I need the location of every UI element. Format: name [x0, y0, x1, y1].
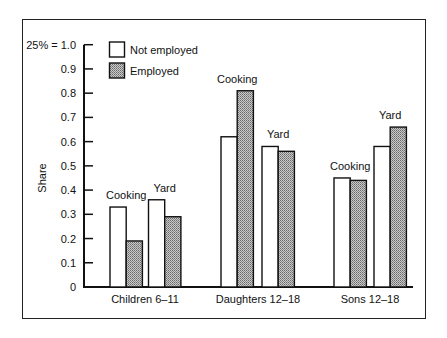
y-tick-label: 0.1 — [61, 257, 76, 269]
y-tick-label: 25% = 1.0 — [26, 39, 76, 51]
y-tick-label: 0.8 — [61, 87, 76, 99]
bar-group-label: Yard — [379, 109, 401, 121]
bar-employed — [390, 127, 406, 287]
y-tick-label: 0.6 — [61, 136, 76, 148]
y-tick-label: 0 — [70, 281, 76, 293]
legend: Not employedEmployed — [110, 42, 198, 78]
bar-group-label: Yard — [267, 128, 289, 140]
bar-not-employed — [334, 178, 350, 287]
bar-not-employed — [374, 146, 390, 287]
y-tick-label: 0.9 — [61, 63, 76, 75]
y-tick-label: 0.7 — [61, 111, 76, 123]
bar-group-label: Cooking — [217, 73, 257, 85]
x-category-label: Sons 12–18 — [341, 293, 400, 305]
bar-not-employed — [221, 137, 237, 287]
bar-employed — [237, 91, 253, 287]
x-category-label: Daughters 12–18 — [216, 293, 300, 305]
y-tick-label: 0.5 — [61, 160, 76, 172]
legend-label: Employed — [130, 65, 179, 77]
bar-group-label: Cooking — [330, 160, 370, 172]
bars: CookingYardChildren 6–11CookingYardDaugh… — [106, 73, 406, 305]
bar-employed — [165, 217, 181, 287]
bar-employed — [126, 241, 142, 287]
legend-swatch — [110, 42, 125, 57]
bar-employed — [278, 151, 294, 287]
bar-employed — [350, 180, 366, 287]
bar-group-label: Yard — [153, 182, 175, 194]
y-tick-label: 0.2 — [61, 233, 76, 245]
bar-not-employed — [149, 200, 165, 287]
bar-chart: 00.10.20.30.40.50.60.70.80.925% = 1.0Sha… — [0, 0, 447, 338]
y-tick-label: 0.4 — [61, 184, 76, 196]
bar-not-employed — [110, 207, 126, 287]
y-tick-label: 0.3 — [61, 208, 76, 220]
legend-label: Not employed — [130, 44, 198, 56]
bar-group-label: Cooking — [106, 189, 146, 201]
legend-swatch — [110, 63, 125, 78]
x-category-label: Children 6–11 — [111, 293, 179, 305]
y-axis-label: Share — [36, 163, 48, 192]
bar-not-employed — [262, 146, 278, 287]
